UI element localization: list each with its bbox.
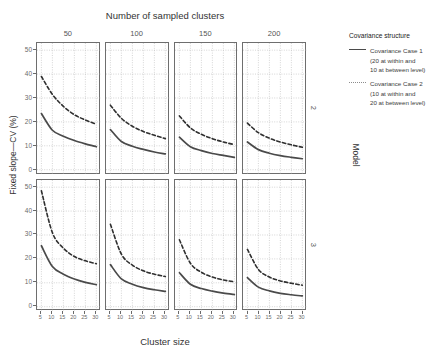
- series-line-covariance-case-2: [179, 116, 234, 145]
- series-line-covariance-case-1: [248, 142, 303, 159]
- x-axis-title: Cluster size: [0, 336, 330, 347]
- x-tick-mark: [233, 311, 234, 314]
- facet-strip-col-50: 50: [36, 29, 100, 41]
- facet-strip-col-150: 150: [174, 29, 238, 41]
- facet-grid: 5010015020023510152025305101520253051015…: [36, 42, 306, 310]
- legend-key-solid-line-icon: [349, 49, 366, 50]
- panel-plot-area: [243, 180, 307, 312]
- facet-panel-model-2-clusters-150: [174, 42, 238, 174]
- x-tick-mark: [269, 311, 270, 314]
- x-tick-mark: [178, 311, 179, 314]
- gridlines: [106, 180, 170, 312]
- x-tick-label: 30: [228, 314, 238, 320]
- y-tick-mark: [33, 97, 36, 98]
- facet-strip-row-2: 2: [307, 42, 320, 174]
- facet-panel-model-3-clusters-200: [242, 179, 306, 311]
- y-tick-mark: [33, 305, 36, 306]
- legend-label-line: Covariance Case 2: [370, 79, 433, 89]
- x-tick-mark: [40, 311, 41, 314]
- x-tick-label: 20: [137, 314, 147, 320]
- panel-plot-area: [106, 43, 170, 175]
- x-tick-mark: [200, 311, 201, 314]
- gridlines: [175, 180, 239, 312]
- x-tick-mark: [153, 311, 154, 314]
- y-tick-label: 50: [18, 182, 32, 189]
- legend-title: Covariance structure: [349, 31, 433, 41]
- x-tick-label: 15: [126, 314, 136, 320]
- legend-entry-1[interactable]: Covariance Case 1(20 at within and10 at …: [349, 46, 433, 75]
- facet-column-title: Number of sampled clusters: [0, 10, 330, 21]
- series-line-covariance-case-2: [248, 249, 303, 285]
- x-tick-mark: [51, 311, 52, 314]
- y-tick-label: 30: [18, 230, 32, 237]
- x-tick-mark: [142, 311, 143, 314]
- panel-plot-area: [243, 43, 307, 175]
- series-line-covariance-case-1: [110, 130, 165, 154]
- x-tick-mark: [109, 311, 110, 314]
- legend-entry-2[interactable]: Covariance Case 2(10 at within and20 at …: [349, 79, 433, 108]
- x-tick-mark: [222, 311, 223, 314]
- x-tick-mark: [131, 311, 132, 314]
- gridlines: [106, 43, 170, 175]
- y-tick-mark: [33, 145, 36, 146]
- x-tick-label: 20: [275, 314, 285, 320]
- legend-label-line: 10 at between level): [370, 65, 433, 75]
- series-line-covariance-case-1: [179, 137, 234, 157]
- gridlines: [37, 180, 101, 312]
- panel-plot-area: [175, 43, 239, 175]
- panel-plot-area: [106, 180, 170, 312]
- y-tick-label: 0: [18, 165, 32, 172]
- series-line-covariance-case-1: [248, 277, 303, 295]
- x-tick-label: 5: [35, 314, 45, 320]
- x-tick-label: 20: [68, 314, 78, 320]
- x-tick-label: 5: [242, 314, 252, 320]
- x-tick-label: 20: [206, 314, 216, 320]
- facet-row-title: Model: [351, 115, 361, 195]
- x-tick-label: 15: [57, 314, 67, 320]
- y-tick-label: 20: [18, 117, 32, 124]
- panel-plot-area: [37, 180, 101, 312]
- series-line-covariance-case-1: [41, 245, 96, 284]
- series-line-covariance-case-2: [41, 76, 96, 124]
- x-tick-label: 10: [253, 314, 263, 320]
- y-tick-mark: [33, 73, 36, 74]
- legend-entries: Covariance Case 1(20 at within and10 at …: [349, 46, 433, 108]
- facet-strip-row-3: 3: [307, 179, 320, 311]
- x-tick-label: 10: [115, 314, 125, 320]
- x-tick-mark: [62, 311, 63, 314]
- x-tick-label: 25: [148, 314, 158, 320]
- series-line-covariance-case-2: [110, 224, 165, 276]
- y-tick-label: 10: [18, 278, 32, 285]
- y-tick-label: 30: [18, 93, 32, 100]
- panel-plot-area: [37, 43, 101, 175]
- y-tick-label: 40: [18, 70, 32, 77]
- y-tick-label: 40: [18, 206, 32, 213]
- x-tick-label: 15: [264, 314, 274, 320]
- series-line-covariance-case-2: [179, 239, 234, 281]
- y-tick-label: 20: [18, 254, 32, 261]
- x-tick-mark: [280, 311, 281, 314]
- y-tick-mark: [33, 121, 36, 122]
- x-tick-mark: [164, 311, 165, 314]
- legend-label-line: Covariance Case 1: [370, 46, 433, 56]
- facet-panel-model-2-clusters-50: [36, 42, 100, 174]
- x-tick-mark: [84, 311, 85, 314]
- y-axis-title: Fixed slope—CV (%): [8, 95, 18, 215]
- x-tick-label: 25: [286, 314, 296, 320]
- facet-strip-col-200: 200: [242, 29, 306, 41]
- x-tick-label: 10: [184, 314, 194, 320]
- x-tick-mark: [95, 311, 96, 314]
- gridlines: [175, 43, 239, 175]
- x-tick-mark: [189, 311, 190, 314]
- legend-key-dashed-line-icon: [349, 82, 366, 83]
- x-tick-label: 25: [217, 314, 227, 320]
- series-line-covariance-case-1: [179, 272, 234, 294]
- y-tick-label: 50: [18, 46, 32, 53]
- series-line-covariance-case-1: [41, 114, 96, 147]
- x-tick-mark: [211, 311, 212, 314]
- facet-panel-model-3-clusters-100: [105, 179, 169, 311]
- x-tick-mark: [291, 311, 292, 314]
- series-line-covariance-case-2: [248, 123, 303, 147]
- legend-label-line: (20 at within and: [370, 56, 433, 66]
- facet-panel-model-2-clusters-200: [242, 42, 306, 174]
